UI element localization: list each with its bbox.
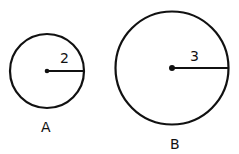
circles-diagram: 2 A 3 B [0, 0, 239, 154]
circle-b-group: 3 B [116, 12, 229, 153]
radius-a-label: 2 [60, 50, 69, 66]
radius-b-label: 3 [190, 48, 199, 64]
circle-a-group: 2 A [10, 34, 84, 135]
center-b-dot [169, 65, 175, 71]
circle-a-name: A [41, 119, 51, 135]
circle-b-name: B [170, 136, 180, 152]
center-a-dot [45, 69, 50, 74]
